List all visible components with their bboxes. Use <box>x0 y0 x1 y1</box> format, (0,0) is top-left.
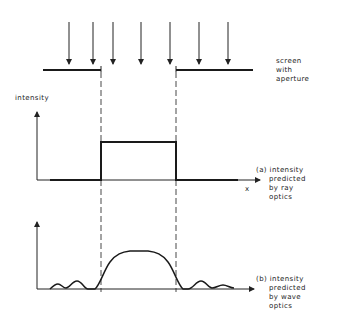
panel-a-intensity-profile <box>50 142 238 180</box>
panel-b-wave-optics: (b) intensity predicted by wave optics <box>37 222 308 310</box>
screen-label: screen with aperture <box>276 57 309 83</box>
panel-a-label: (a) intensity predicted by ray optics <box>256 166 308 201</box>
incident-rays <box>69 22 228 64</box>
panel-b-intensity-profile <box>50 251 234 289</box>
panel-b-label: (b) intensity predicted by wave optics <box>256 275 308 310</box>
x-axis-label: x <box>245 185 250 193</box>
aperture-diffraction-figure: screen with aperture intensity x (a) int… <box>0 0 344 333</box>
panel-a-ray-optics: x (a) intensity predicted by ray optics <box>37 112 308 201</box>
y-axis-label: intensity <box>15 94 49 102</box>
screen <box>43 66 253 72</box>
